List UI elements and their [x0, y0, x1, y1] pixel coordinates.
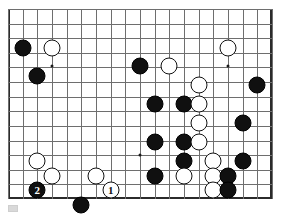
- stone-white[interactable]: [190, 96, 207, 113]
- stone-black[interactable]: [132, 58, 149, 75]
- stone-black[interactable]: [249, 77, 266, 94]
- go-board[interactable]: 21: [8, 9, 272, 199]
- stone-white[interactable]: [190, 134, 207, 151]
- stone-black[interactable]: [146, 167, 163, 184]
- grid-hline-9: [8, 141, 272, 142]
- stone-white[interactable]: [44, 167, 61, 184]
- stone-black-move-2[interactable]: 2: [29, 182, 46, 199]
- stone-white[interactable]: [190, 115, 207, 132]
- grid-hline-7: [8, 111, 272, 112]
- stone-black[interactable]: [29, 68, 46, 85]
- stone-white[interactable]: [161, 58, 178, 75]
- stone-black[interactable]: [220, 182, 237, 199]
- grid-hline-6: [8, 97, 272, 98]
- star-point-0: [51, 65, 54, 68]
- stone-white[interactable]: [29, 153, 46, 170]
- grid-vline-18: [272, 9, 273, 199]
- grid-hline-8: [8, 126, 272, 127]
- grid-hline-1: [8, 24, 272, 25]
- stone-white[interactable]: [44, 39, 61, 56]
- stone-black[interactable]: [234, 153, 251, 170]
- caption-mark: [8, 205, 18, 212]
- stone-move-number: 1: [108, 185, 114, 196]
- stone-black[interactable]: [146, 96, 163, 113]
- grid-hline-0: [8, 9, 272, 10]
- stone-white[interactable]: [190, 77, 207, 94]
- stone-white[interactable]: [176, 167, 193, 184]
- stone-black[interactable]: [14, 39, 31, 56]
- stone-black[interactable]: [73, 196, 90, 213]
- grid-hline-5: [8, 82, 272, 83]
- stone-white-move-1[interactable]: 1: [102, 182, 119, 199]
- stone-black[interactable]: [146, 134, 163, 151]
- stone-white[interactable]: [88, 167, 105, 184]
- star-point-1: [139, 154, 142, 157]
- stone-white[interactable]: [220, 39, 237, 56]
- go-diagram-root: 21: [0, 0, 282, 216]
- star-point-2: [227, 65, 230, 68]
- stone-black[interactable]: [234, 115, 251, 132]
- stone-move-number: 2: [35, 185, 41, 196]
